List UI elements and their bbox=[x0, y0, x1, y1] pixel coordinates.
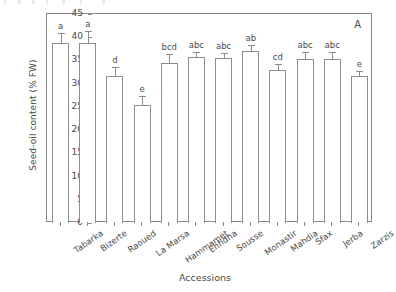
error-bar-line bbox=[61, 33, 62, 43]
x-tick-mark bbox=[141, 222, 142, 226]
error-bar-cap bbox=[58, 33, 65, 34]
y-tick-mark bbox=[88, 14, 92, 15]
error-bar-cap bbox=[139, 96, 146, 97]
error-bar-line bbox=[88, 31, 89, 43]
bar bbox=[351, 76, 368, 223]
error-bar-cap bbox=[193, 52, 200, 53]
x-tick-mark bbox=[223, 222, 224, 226]
bar bbox=[106, 76, 123, 223]
bar bbox=[134, 105, 151, 223]
significance-letter: cd bbox=[264, 52, 292, 62]
x-tick-mark bbox=[168, 222, 169, 226]
error-bar-cap bbox=[329, 52, 336, 53]
bar bbox=[324, 59, 341, 223]
x-axis-title: Accessions bbox=[40, 272, 370, 283]
x-tick-mark bbox=[277, 222, 278, 226]
error-bar-cap bbox=[275, 64, 282, 65]
bar bbox=[215, 58, 232, 223]
x-category-label: Sfax bbox=[313, 228, 334, 247]
significance-letter: abc bbox=[182, 40, 210, 50]
x-tick-mark bbox=[60, 222, 61, 226]
x-tick-mark bbox=[304, 222, 305, 226]
plot-area: 051015202530354045 aadebcdabcabcabcdabca… bbox=[46, 13, 372, 222]
bar bbox=[188, 57, 205, 223]
significance-letter: abc bbox=[318, 40, 346, 50]
error-bar-line bbox=[169, 54, 170, 63]
bar bbox=[52, 43, 69, 223]
error-bar-cap bbox=[112, 67, 119, 68]
x-tick-mark bbox=[358, 222, 359, 226]
bar bbox=[269, 70, 286, 223]
error-bar-cap bbox=[356, 71, 363, 72]
y-tick-label: 40 bbox=[47, 31, 83, 41]
x-category-label: Bizerte bbox=[98, 228, 128, 253]
error-bar-line bbox=[115, 67, 116, 76]
error-bar-line bbox=[142, 96, 143, 105]
y-axis-title: Seed-oil content (% FW) bbox=[28, 25, 38, 205]
significance-letter: a bbox=[47, 21, 75, 31]
x-category-label: Zarzis bbox=[369, 228, 396, 251]
bar bbox=[79, 43, 96, 223]
significance-letter: abc bbox=[291, 40, 319, 50]
panel-label: A bbox=[354, 19, 361, 30]
significance-letter: a bbox=[74, 19, 102, 29]
error-bar-cap bbox=[85, 31, 92, 32]
significance-letter: d bbox=[101, 55, 129, 65]
x-tick-mark bbox=[195, 222, 196, 226]
error-bar-cap bbox=[221, 53, 228, 54]
x-category-label: Tabarka bbox=[72, 228, 105, 255]
x-tick-mark bbox=[331, 222, 332, 226]
x-tick-mark bbox=[250, 222, 251, 226]
significance-letter: abc bbox=[210, 41, 238, 51]
significance-letter: e bbox=[128, 84, 156, 94]
x-category-label: Raoued bbox=[126, 228, 158, 255]
y-tick-label: 45 bbox=[47, 8, 83, 18]
significance-letter: bcd bbox=[155, 42, 183, 52]
x-tick-mark bbox=[87, 222, 88, 226]
error-bar-cap bbox=[166, 54, 173, 55]
cropped-text-artifact bbox=[2, 0, 162, 4]
bar bbox=[161, 63, 178, 223]
significance-letter: ab bbox=[237, 33, 265, 43]
significance-letter: e bbox=[345, 59, 373, 69]
error-bar-cap bbox=[302, 52, 309, 53]
x-category-label: Jerba bbox=[341, 228, 365, 249]
x-category-label: Sousse bbox=[234, 228, 264, 253]
error-bar-cap bbox=[248, 45, 255, 46]
bar bbox=[242, 51, 259, 223]
bar bbox=[297, 59, 314, 223]
error-bar-line bbox=[305, 52, 306, 59]
x-tick-mark bbox=[114, 222, 115, 226]
